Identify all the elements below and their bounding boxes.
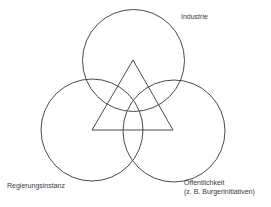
circle-oeffentlichkeit bbox=[123, 80, 225, 182]
label-oeffentlichkeit-example: (z. B. Burgerinitiativen) bbox=[184, 187, 255, 196]
central-triangle bbox=[92, 60, 173, 130]
label-regierungsinstanz: Regierungsinstanz bbox=[7, 181, 65, 190]
label-industrie: Industrie bbox=[181, 12, 208, 21]
venn-diagram bbox=[0, 0, 271, 207]
label-oeffentlichkeit: Öffentlichkeit bbox=[184, 178, 224, 187]
